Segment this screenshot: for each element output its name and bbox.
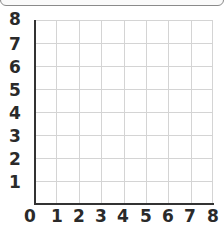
y-tick-label-7: 7 — [4, 35, 26, 53]
x-tick-label-3: 3 — [91, 205, 111, 227]
grid-line-h6 — [34, 66, 213, 67]
x-tick-label-4: 4 — [113, 205, 133, 227]
x-tick-label-6: 6 — [158, 205, 178, 227]
y-tick-label-3: 3 — [4, 127, 26, 145]
plot-grid — [34, 20, 213, 204]
top-frame-edge — [0, 0, 224, 6]
y-axis — [34, 20, 36, 205]
x-tick-label-7: 7 — [180, 205, 200, 227]
y-tick-label-6: 6 — [4, 58, 26, 76]
y-tick-label-4: 4 — [4, 104, 26, 122]
x-tick-label-2: 2 — [69, 205, 89, 227]
grid-line-h7 — [34, 43, 213, 44]
y-tick-label-5: 5 — [4, 81, 26, 99]
y-tick-label-2: 2 — [4, 150, 26, 168]
x-tick-label-5: 5 — [136, 205, 156, 227]
grid-line-h3 — [34, 135, 213, 136]
grid-line-h4 — [34, 112, 213, 113]
grid-line-h8 — [34, 20, 213, 21]
x-tick-label-8: 8 — [203, 205, 223, 227]
origin-label: 0 — [20, 205, 40, 227]
y-tick-label-1: 1 — [4, 173, 26, 191]
grid-line-h2 — [34, 158, 213, 159]
x-tick-label-1: 1 — [47, 205, 67, 227]
grid-line-h1 — [34, 181, 213, 182]
grid-line-h5 — [34, 89, 213, 90]
y-tick-label-8: 8 — [4, 10, 26, 28]
